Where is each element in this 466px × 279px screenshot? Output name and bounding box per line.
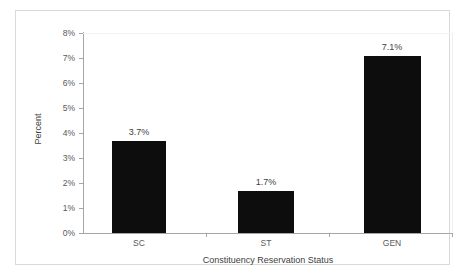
y-tick-label-6: 6% [31,79,75,88]
y-tick-mark-4 [79,133,83,134]
y-tick-label-8: 8% [31,29,75,38]
y-tick-label-4: 4% [31,129,75,138]
y-tick-label-wrap-8: 8% [28,33,75,34]
bar-sc[interactable] [112,141,166,234]
x-axis-title: Constituency Reservation Status [83,255,453,265]
y-tick-label-wrap-1: 1% [28,208,75,209]
y-tick-mark-7 [79,58,83,59]
y-tick-mark-3 [79,158,83,159]
y-tick-mark-0 [79,233,83,234]
bar-label-sc: 3.7% [104,128,174,137]
x-tick-mark-2 [329,233,330,237]
y-tick-mark-1 [79,208,83,209]
y-tick-label-wrap-3: 3% [28,158,75,159]
y-tick-label-1: 1% [31,204,75,213]
category-axis-line [83,233,453,234]
y-tick-label-wrap-6: 6% [28,83,75,84]
y-tick-mark-8 [79,33,83,34]
y-tick-label-2: 2% [31,179,75,188]
x-tick-mark-3 [452,233,453,237]
y-tick-label-wrap-5: 5% [28,108,75,109]
y-tick-label-wrap-7: 7% [28,58,75,59]
plot-area-right-border [452,33,453,233]
y-tick-mark-5 [79,108,83,109]
y-tick-label-wrap-0: 0% [28,233,75,234]
value-axis-line [83,32,84,234]
y-tick-mark-2 [79,183,83,184]
chart-frame: Percent 0% 1% 2% 3% 4% 5% 6% 7% 8% 3 [15,10,450,265]
plot-area-top-border [83,33,453,34]
y-tick-label-wrap-2: 2% [28,183,75,184]
y-tick-label-5: 5% [31,104,75,113]
y-tick-label-wrap-4: 4% [28,133,75,134]
bar-label-gen: 7.1% [357,43,427,52]
category-label-gen: GEN [357,239,427,248]
y-tick-label-3: 3% [31,154,75,163]
bar-st[interactable] [238,191,294,234]
category-label-st: ST [231,239,301,248]
category-label-sc: SC [104,239,174,248]
y-tick-label-7: 7% [31,54,75,63]
y-tick-mark-6 [79,83,83,84]
x-tick-mark-1 [206,233,207,237]
bar-gen[interactable] [364,56,421,234]
y-tick-label-0: 0% [31,229,75,238]
bar-label-st: 1.7% [231,178,301,187]
